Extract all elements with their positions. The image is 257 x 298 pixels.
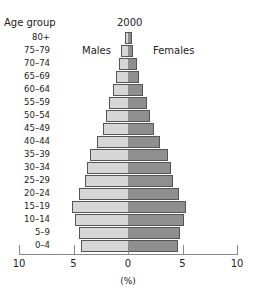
male-bar — [113, 84, 128, 96]
female-bar — [128, 201, 186, 213]
age-label: 10–14 — [0, 214, 50, 224]
male-bar — [109, 97, 128, 109]
female-bar — [128, 97, 147, 109]
male-bar — [87, 162, 128, 174]
age-label: 30–34 — [0, 162, 50, 172]
male-bar — [97, 136, 128, 148]
x-tick — [74, 245, 75, 255]
female-bar — [128, 32, 132, 44]
chart-title: 2000 — [117, 17, 142, 28]
female-bar — [128, 71, 139, 83]
age-label: 45–49 — [0, 123, 50, 133]
female-bar — [128, 240, 178, 252]
age-label: 65–69 — [0, 71, 50, 81]
age-label: 70–74 — [0, 58, 50, 68]
age-label: 15–19 — [0, 201, 50, 211]
age-label: 20–24 — [0, 188, 50, 198]
male-bar — [81, 240, 128, 252]
age-label: 80+ — [0, 32, 50, 42]
x-axis — [20, 254, 238, 255]
male-bar — [75, 214, 128, 226]
female-bar — [128, 227, 180, 239]
age-label: 60–64 — [0, 84, 50, 94]
x-tick-label: 0 — [125, 258, 131, 269]
female-bar — [128, 136, 160, 148]
female-bar — [128, 188, 179, 200]
female-bar — [128, 175, 173, 187]
x-tick — [128, 245, 129, 255]
female-bar — [128, 162, 171, 174]
legend-females: Females — [153, 45, 194, 56]
female-bar — [128, 214, 184, 226]
female-bar — [128, 110, 150, 122]
age-label: 0–4 — [0, 240, 50, 250]
x-tick-label: 5 — [179, 258, 185, 269]
legend-males: Males — [82, 45, 111, 56]
x-tick — [237, 245, 238, 255]
x-tick — [183, 245, 184, 255]
male-bar — [106, 110, 128, 122]
male-bar — [119, 58, 128, 70]
x-tick-label: 10 — [13, 258, 26, 269]
male-bar — [121, 45, 128, 57]
male-bar — [79, 188, 128, 200]
age-label: 55–59 — [0, 97, 50, 107]
female-bar — [128, 123, 154, 135]
age-label: 40–44 — [0, 136, 50, 146]
female-bar — [128, 149, 168, 161]
male-bar — [85, 175, 128, 187]
male-bar — [72, 201, 128, 213]
age-label: 75–79 — [0, 45, 50, 55]
age-label: 50–54 — [0, 110, 50, 120]
female-bar — [128, 58, 137, 70]
age-label: 25–29 — [0, 175, 50, 185]
x-tick-label: 10 — [231, 258, 244, 269]
age-label: 5–9 — [0, 227, 50, 237]
x-tick-label: 5 — [70, 258, 76, 269]
age-label: 35–39 — [0, 149, 50, 159]
male-bar — [116, 71, 128, 83]
male-bar — [90, 149, 128, 161]
male-bar — [103, 123, 128, 135]
female-bar — [128, 45, 133, 57]
x-axis-title: (%) — [120, 276, 136, 286]
x-tick — [19, 245, 20, 255]
female-bar — [128, 84, 143, 96]
y-axis-title: Age group — [4, 17, 56, 28]
male-bar — [79, 227, 128, 239]
